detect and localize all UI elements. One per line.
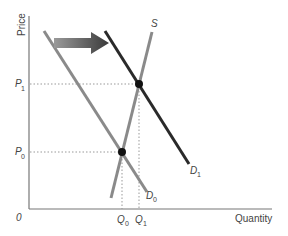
p0-label: P 0 — [15, 146, 25, 160]
svg-text:0: 0 — [21, 153, 25, 160]
svg-text:Q: Q — [135, 214, 143, 225]
shift-arrow-icon — [54, 32, 109, 54]
q1-label: Q 1 — [135, 214, 147, 227]
x-axis-label: Quantity — [235, 213, 272, 224]
equilibrium-point-new — [135, 80, 143, 88]
q0-label: Q 0 — [117, 214, 129, 227]
svg-text:0: 0 — [153, 196, 157, 203]
d0-label: D 0 — [146, 190, 157, 203]
origin-label: 0 — [16, 212, 22, 223]
p1-label: P 1 — [15, 78, 25, 92]
svg-text:1: 1 — [143, 220, 147, 227]
svg-text:1: 1 — [21, 85, 25, 92]
svg-text:1: 1 — [197, 171, 201, 178]
supply-curve — [111, 32, 152, 198]
supply-demand-diagram: Price Quantity 0 P 1 P 0 Q 0 Q 1 S D 1 D… — [0, 0, 288, 236]
svg-text:0: 0 — [125, 220, 129, 227]
y-axis-label: Price — [16, 13, 27, 36]
d1-label: D 1 — [190, 165, 201, 178]
supply-label: S — [151, 18, 158, 29]
equilibrium-point-initial — [118, 148, 126, 156]
svg-text:Q: Q — [117, 214, 125, 225]
